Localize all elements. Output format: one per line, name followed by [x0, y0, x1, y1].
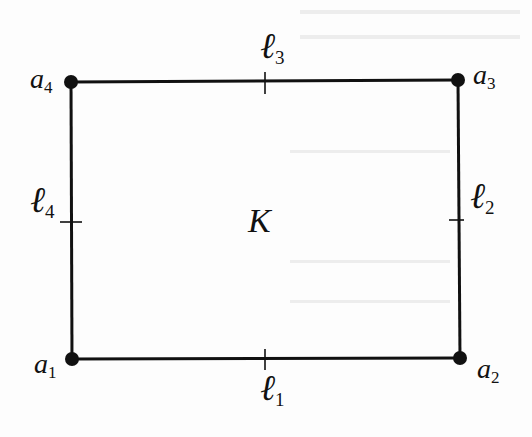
vertex-a1-dot — [65, 352, 79, 366]
edge-l1 — [72, 358, 460, 359]
region-label-k: K — [247, 202, 273, 239]
edge-label-l1: ℓ1 — [260, 368, 285, 410]
bleed-through-text — [290, 10, 520, 303]
vertex-label-a4: a4 — [30, 63, 53, 97]
vertex-a4-dot — [64, 75, 78, 89]
vertex-label-a3: a3 — [473, 59, 496, 93]
edge-l2 — [458, 80, 460, 358]
vertex-a3-dot — [451, 73, 465, 87]
diagram-canvas: a4 a3 a1 a2 ℓ3 ℓ1 ℓ4 ℓ2 K — [0, 0, 532, 437]
edge-label-l3: ℓ3 — [260, 26, 285, 68]
edge-label-l4: ℓ4 — [30, 180, 55, 222]
edge-l4 — [71, 82, 72, 359]
vertex-a2-dot — [453, 351, 467, 365]
vertex-label-a2: a2 — [477, 353, 500, 387]
edge-label-l2: ℓ2 — [470, 176, 495, 218]
vertex-label-a1: a1 — [34, 348, 57, 382]
rectangle-element-diagram: a4 a3 a1 a2 ℓ3 ℓ1 ℓ4 ℓ2 K — [0, 0, 532, 437]
